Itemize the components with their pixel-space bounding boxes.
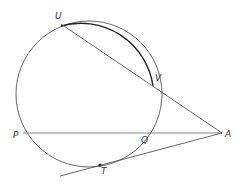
secant-UA — [61, 24, 222, 133]
label-Q: Q — [141, 135, 148, 145]
label-T: T — [101, 166, 108, 176]
label-U: U — [55, 11, 62, 21]
geometry-diagram: U V P Q T A — [0, 0, 240, 184]
label-V: V — [155, 73, 162, 83]
label-P: P — [13, 130, 19, 140]
label-A: A — [224, 129, 231, 139]
